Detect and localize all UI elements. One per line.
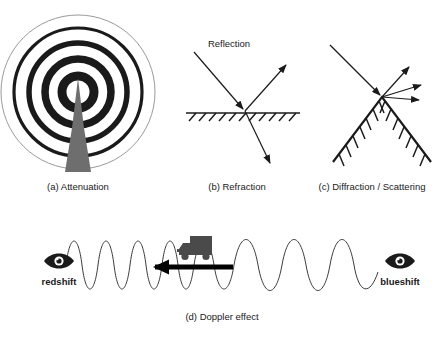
blueshift-label: blueshift — [380, 276, 420, 287]
reflection-label: Reflection — [208, 38, 250, 49]
panel-a-caption: (a) Attenuation — [47, 181, 109, 192]
panel-c-caption: (c) Diffraction / Scattering — [318, 181, 425, 192]
panel-b-caption: (b) Refraction — [208, 181, 266, 192]
propagation-figure: (a) Attenuation Reflection (b) Refractio… — [0, 0, 444, 337]
redshift-label: redshift — [42, 276, 78, 287]
panel-d-caption: (d) Doppler effect — [185, 311, 259, 322]
